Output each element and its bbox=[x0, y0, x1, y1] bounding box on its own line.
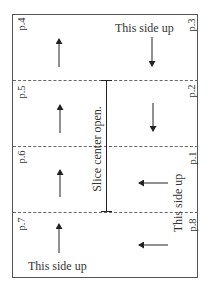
arrow-layer bbox=[0, 0, 210, 289]
